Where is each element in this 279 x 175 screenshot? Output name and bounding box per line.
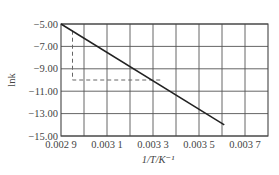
data-line — [61, 24, 224, 125]
y-tick-label: −13.00 — [28, 108, 58, 119]
y-tick-label: −7.00 — [34, 41, 58, 52]
x-tick-label: 0.003 5 — [183, 139, 215, 150]
y-axis-label: lnk — [6, 73, 17, 87]
x-tick-label: 0.003 1 — [91, 139, 123, 150]
dashed-guide — [73, 31, 163, 80]
x-tick-label: 0.002 9 — [45, 139, 77, 150]
plot-border — [61, 24, 268, 136]
x-axis-label: 1/T/K⁻¹ — [142, 154, 175, 165]
y-tick-label: −9.00 — [34, 63, 58, 74]
y-tick-label: −5.00 — [34, 19, 58, 30]
dashed-guide-lines — [73, 31, 163, 80]
x-tick-label: 0.003 3 — [137, 139, 169, 150]
plot-frame — [61, 24, 268, 136]
y-tick-label: −11.00 — [29, 86, 58, 97]
y-axis-tick-labels: −5.00−7.00−9.00−11.00−13.00−15.00 — [28, 19, 58, 142]
x-tick-label: 0.003 7 — [229, 139, 261, 150]
line-chart: −5.00−7.00−9.00−11.00−13.00−15.00 0.002 … — [0, 0, 279, 175]
plot-grid — [61, 24, 268, 136]
x-axis-tick-labels: 0.002 90.003 10.003 30.003 50.003 7 — [45, 139, 261, 150]
data-series — [61, 24, 224, 125]
